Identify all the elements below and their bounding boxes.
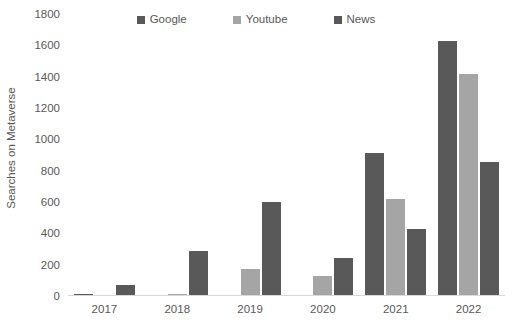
bar-news-2018[interactable]	[189, 251, 208, 296]
x-axis-tick-label: 2019	[237, 303, 263, 315]
y-axis-title: Searches on Metaverse	[2, 0, 20, 296]
y-axis-tick-labels: 020040060080010001200140016001800	[20, 0, 64, 296]
x-axis-tick-label: 2017	[92, 303, 118, 315]
bar-news-2020[interactable]	[334, 258, 353, 296]
x-axis-tick-label: 2021	[383, 303, 409, 315]
y-axis-title-label: Searches on Metaverse	[5, 87, 17, 208]
y-axis-tick-label: 400	[41, 227, 60, 239]
y-axis-tick-label: 1600	[34, 39, 60, 51]
y-axis-tick-label: 1800	[34, 8, 60, 20]
x-axis-tick-label: 2022	[456, 303, 482, 315]
x-axis-line	[68, 295, 505, 296]
bar-news-2021[interactable]	[407, 229, 426, 296]
bar-news-2022[interactable]	[480, 162, 499, 296]
bar-youtube-2020[interactable]	[313, 276, 332, 296]
bar-group-2017	[68, 14, 141, 296]
bar-google-2021[interactable]	[365, 153, 384, 296]
bar-chart: GoogleYoutubeNews Searches on Metaverse …	[0, 0, 512, 325]
y-axis-tick-label: 800	[41, 165, 60, 177]
bar-group-2021	[359, 14, 432, 296]
bar-group-2022	[432, 14, 505, 296]
y-axis-tick-label: 600	[41, 196, 60, 208]
bar-group-2020	[287, 14, 360, 296]
bar-youtube-2021[interactable]	[386, 199, 405, 296]
bar-youtube-2022[interactable]	[459, 74, 478, 296]
y-axis-tick-label: 200	[41, 259, 60, 271]
bar-youtube-2019[interactable]	[241, 269, 260, 296]
y-axis-tick-label: 1400	[34, 71, 60, 83]
y-axis-tick-label: 1000	[34, 133, 60, 145]
bar-group-2019	[214, 14, 287, 296]
bar-google-2022[interactable]	[438, 41, 457, 296]
y-axis-tick-label: 0	[54, 290, 60, 302]
x-axis-tick-label: 2020	[310, 303, 336, 315]
bar-group-2018	[141, 14, 214, 296]
x-axis-tick-label: 2018	[164, 303, 190, 315]
x-axis-tick-labels: 201720182019202020212022	[68, 298, 505, 322]
bar-news-2019[interactable]	[262, 202, 281, 296]
plot-area	[68, 14, 505, 296]
y-axis-tick-label: 1200	[34, 102, 60, 114]
